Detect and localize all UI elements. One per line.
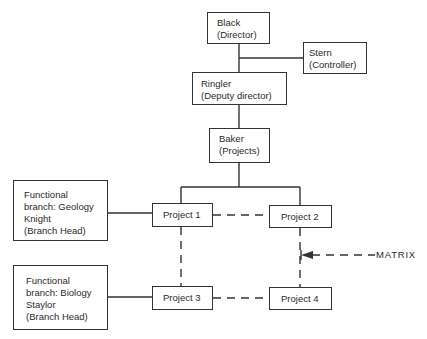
projects-head-role: (Projects) (219, 145, 269, 157)
projects-head-box: Baker (Projects) (209, 128, 270, 163)
biology-head-name: Staylor (26, 299, 107, 311)
arrow-head-icon (301, 251, 313, 259)
geology-line2: branch: Geology (24, 201, 107, 213)
project-3-box: Project 3 (152, 286, 213, 310)
biology-line2: branch: Biology (26, 287, 107, 299)
matrix-label: MATRIX (376, 249, 416, 260)
project-3-label: Project 3 (163, 292, 212, 304)
projects-head-name: Baker (219, 133, 269, 145)
geology-line1: Functional (24, 189, 107, 201)
geology-head-role: (Branch Head) (24, 225, 107, 237)
controller-box: Stern (Controller) (303, 42, 367, 74)
biology-head-role: (Branch Head) (26, 311, 107, 323)
deputy-role: (Deputy director) (201, 90, 286, 102)
biology-line1: Functional (26, 275, 107, 287)
geology-head-name: Knight (24, 213, 107, 225)
project-2-box: Project 2 (269, 205, 332, 228)
project-4-label: Project 4 (281, 293, 331, 305)
project-1-label: Project 1 (163, 209, 212, 221)
controller-name: Stern (309, 47, 366, 59)
controller-role: (Controller) (309, 59, 366, 71)
director-name: Black (217, 17, 269, 29)
deputy-name: Ringler (201, 78, 286, 90)
project-2-label: Project 2 (281, 211, 331, 223)
functional-branch-geology-box: Functional branch: Geology Knight (Branc… (13, 180, 108, 241)
director-role: (Director) (217, 29, 269, 41)
deputy-director-box: Ringler (Deputy director) (192, 72, 287, 105)
director-box: Black (Director) (207, 12, 270, 44)
project-1-box: Project 1 (152, 203, 213, 227)
functional-branch-biology-box: Functional branch: Biology Staylor (Bran… (13, 265, 108, 330)
project-4-box: Project 4 (269, 287, 332, 310)
